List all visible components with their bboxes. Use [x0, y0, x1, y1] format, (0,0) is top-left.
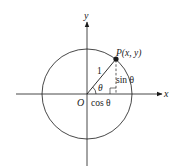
right-angle-marker	[110, 88, 116, 94]
y-axis-label: y	[83, 10, 89, 21]
angle-label: θ	[98, 83, 103, 93]
cos-label: cos θ	[91, 98, 111, 108]
x-axis-label: x	[163, 88, 169, 99]
point-p-label: P(x, y)	[115, 48, 141, 59]
unit-circle-diagram: y x O P(x, y) 1 θ sin θ cos θ	[0, 0, 182, 168]
origin-label: O	[77, 97, 84, 108]
angle-arc	[93, 87, 96, 94]
radius-label: 1	[97, 66, 102, 76]
sin-label: sin θ	[116, 75, 134, 85]
